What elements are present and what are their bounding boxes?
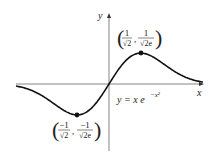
svg-text:√2: √2 (123, 39, 131, 48)
max-point (139, 51, 144, 56)
svg-text:,: , (72, 126, 74, 136)
function-graph: x y ( 1 √2 , 1 √2e ) ( −1 √2 , −1 √2e ) … (0, 0, 212, 159)
svg-text:−1: −1 (59, 120, 69, 130)
svg-text:−1: −1 (80, 120, 90, 130)
y-axis-label: y (97, 10, 103, 21)
x-axis-label: x (196, 87, 202, 98)
min-point-label: ( −1 √2 , −1 √2e ) (52, 117, 101, 142)
svg-text:y = x e: y = x e (116, 94, 145, 105)
svg-text:√2e: √2e (79, 131, 91, 140)
svg-text:√2e: √2e (140, 39, 152, 48)
max-point-label: ( 1 √2 , 1 √2e ) (117, 25, 162, 50)
y-axis-arrow-icon (107, 13, 111, 18)
axes: x y (16, 10, 204, 151)
svg-text:1: 1 (144, 28, 149, 38)
svg-text:−x²: −x² (150, 91, 161, 99)
svg-text:,: , (134, 34, 136, 44)
svg-text:√2: √2 (60, 131, 68, 140)
svg-text:): ) (94, 117, 101, 142)
min-point (75, 113, 80, 118)
equation-label: y = x e −x² (116, 91, 161, 105)
svg-text:1: 1 (125, 28, 130, 38)
svg-text:): ) (155, 25, 162, 50)
